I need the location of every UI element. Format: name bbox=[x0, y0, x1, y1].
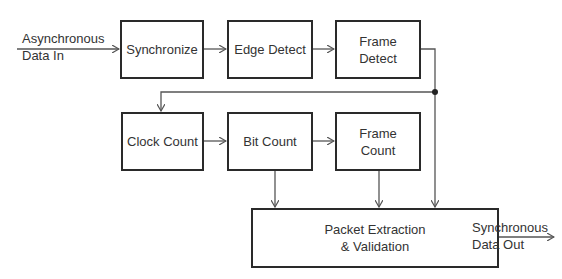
block-bit-count: Bit Count bbox=[227, 112, 313, 171]
block-frame-count: Frame Count bbox=[335, 112, 421, 171]
feedback-wire bbox=[161, 92, 435, 111]
input-label: Asynchronous Data In bbox=[22, 30, 104, 64]
block-edge-detect: Edge Detect bbox=[227, 20, 313, 79]
frame-detect-out-wire bbox=[421, 49, 435, 207]
block-clock-count: Clock Count bbox=[121, 112, 204, 171]
block-synchronize: Synchronize bbox=[120, 20, 204, 79]
block-frame-detect: Frame Detect bbox=[335, 20, 421, 79]
block-packet-extraction: Packet Extraction & Validation bbox=[251, 208, 499, 268]
junction-dot bbox=[432, 89, 438, 95]
output-label: Synchronous Data Out bbox=[472, 219, 548, 253]
